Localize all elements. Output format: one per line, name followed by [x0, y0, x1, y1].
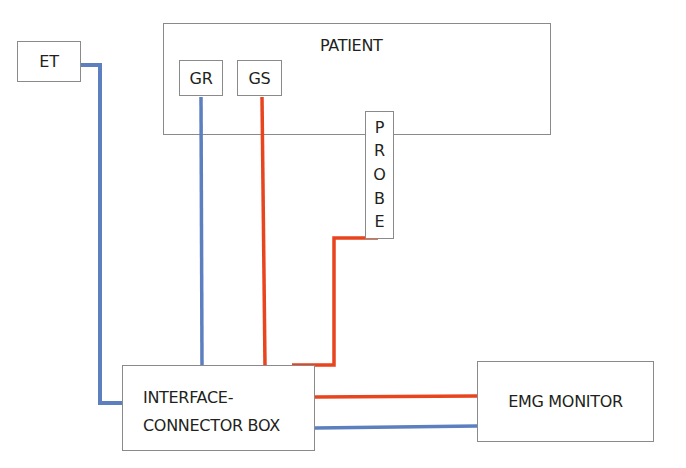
- gs-label: GS: [249, 69, 271, 88]
- interface-label-line2: CONNECTOR BOX: [143, 412, 280, 440]
- wire-gr-to-interface: [201, 97, 202, 365]
- wire-interface-to-emg-red: [315, 396, 477, 397]
- probe-letter: R: [374, 143, 385, 159]
- emg-monitor-box: EMG MONITOR: [477, 361, 654, 442]
- et-label: ET: [39, 52, 58, 71]
- et-box: ET: [17, 41, 81, 82]
- interface-connector-box: INTERFACE- CONNECTOR BOX: [122, 365, 315, 451]
- gr-label: GR: [190, 69, 213, 88]
- wire-et-to-interface: [80, 65, 122, 403]
- wire-probe-to-interface: [292, 238, 378, 365]
- emg-monitor-label: EMG MONITOR: [508, 392, 623, 411]
- probe-label: P R O B E: [366, 112, 393, 238]
- wire-interface-to-emg-blue: [315, 426, 477, 428]
- interface-label: INTERFACE- CONNECTOR BOX: [143, 384, 280, 440]
- probe-letter: O: [373, 167, 386, 183]
- probe-letter: P: [375, 120, 385, 136]
- gs-box: GS: [237, 60, 282, 96]
- wire-gs-to-interface: [262, 97, 265, 365]
- probe-box: P R O B E: [365, 111, 394, 239]
- interface-label-line1: INTERFACE-: [143, 384, 280, 412]
- gr-box: GR: [179, 60, 223, 96]
- probe-letter: B: [374, 191, 385, 207]
- probe-letter: E: [374, 214, 384, 230]
